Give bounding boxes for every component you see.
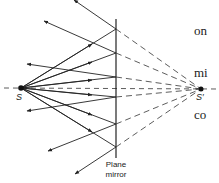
side-text-line: mi: [194, 66, 208, 80]
virtual-rays: [116, 29, 201, 147]
optical-axis: [4, 88, 219, 89]
side-text-line: co: [194, 108, 208, 122]
side-text-line: on: [194, 24, 208, 38]
source-label: S: [16, 92, 22, 102]
mirror-label: Plane mirror: [101, 160, 131, 180]
cropped-body-text: on mi co: [194, 0, 208, 136]
mirror-label-line1: Plane: [101, 160, 131, 170]
mirror-label-line2: mirror: [101, 170, 131, 180]
source-point: [18, 85, 24, 91]
plane-mirror-ray-diagram: [0, 0, 219, 183]
reflected-rays: [27, 0, 116, 174]
